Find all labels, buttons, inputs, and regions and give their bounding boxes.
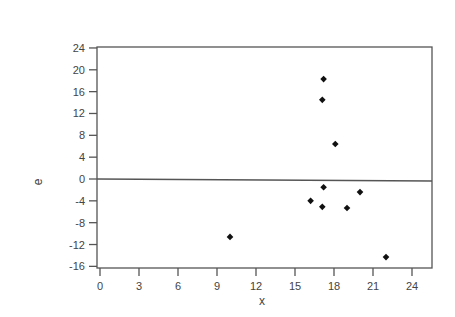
- diamond-marker: [344, 205, 351, 212]
- x-tick-label: 18: [328, 280, 340, 292]
- y-tick-label: -4: [75, 195, 85, 207]
- scatter-chart: 24201612840-4-8-12-16 03691215182124 x e: [0, 0, 455, 317]
- x-axis-label: x: [259, 294, 265, 308]
- diamond-marker: [383, 254, 390, 261]
- x-tick-label: 0: [97, 280, 103, 292]
- x-tick-label: 15: [289, 280, 301, 292]
- y-axis-label: e: [31, 178, 45, 185]
- y-tick-label: 12: [73, 107, 85, 119]
- diamond-marker: [320, 76, 327, 83]
- diamond-marker: [227, 234, 234, 241]
- diamond-marker: [319, 204, 326, 211]
- y-axis: 24201612840-4-8-12-16: [69, 42, 97, 272]
- x-tick-label: 12: [250, 280, 262, 292]
- diamond-marker: [320, 184, 327, 191]
- x-axis: 03691215182124: [97, 268, 418, 292]
- zero-line: [97, 179, 432, 181]
- y-tick-label: 8: [79, 129, 85, 141]
- diamond-marker: [357, 189, 364, 196]
- plot-frame: [97, 47, 432, 268]
- x-tick-label: 6: [175, 280, 181, 292]
- y-tick-label: -12: [69, 239, 85, 251]
- diamond-marker: [319, 97, 326, 104]
- y-tick-label: 16: [73, 86, 85, 98]
- diamond-marker: [307, 198, 314, 205]
- x-tick-label: 24: [406, 280, 418, 292]
- y-tick-label: -16: [69, 260, 85, 272]
- data-points: [227, 76, 390, 261]
- y-tick-label: 20: [73, 64, 85, 76]
- x-tick-label: 9: [214, 280, 220, 292]
- y-tick-label: 24: [73, 42, 85, 54]
- zero-reference-line: [97, 179, 432, 181]
- diamond-marker: [332, 141, 339, 148]
- y-tick-label: 0: [79, 173, 85, 185]
- x-tick-label: 3: [136, 280, 142, 292]
- x-tick-label: 21: [367, 280, 379, 292]
- y-tick-label: 4: [79, 151, 85, 163]
- y-tick-label: -8: [75, 217, 85, 229]
- plot-border: [97, 47, 432, 268]
